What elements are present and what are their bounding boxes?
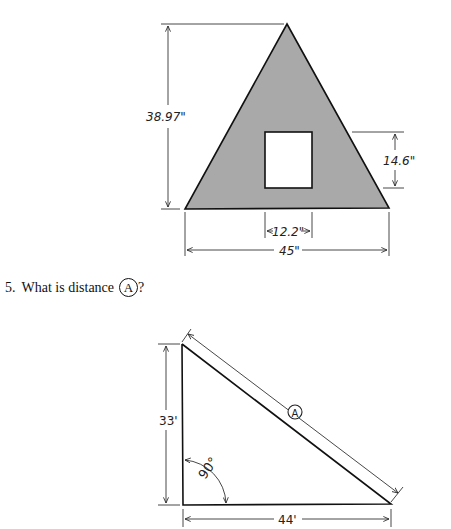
cutout-height-label: 14.6" <box>383 154 415 168</box>
marker-a-label: A <box>292 408 299 419</box>
rectangular-cutout <box>265 132 312 188</box>
base-label: 45" <box>279 244 300 258</box>
question-5: 5. What is distance A ? <box>5 278 144 297</box>
figure-triangle-cutout: 38.97" 14.6" 12.2" 45" 33' 44' <box>0 0 451 529</box>
question-text: What is distance <box>22 280 115 296</box>
question-marker-a: A <box>119 278 138 297</box>
question-number: 5. <box>5 280 16 296</box>
worksheet-page: 38.97" 14.6" 12.2" 45" 33' 44' <box>0 0 451 529</box>
base-label-44: 44' <box>278 513 297 527</box>
question-suffix: ? <box>138 280 144 296</box>
right-triangle <box>182 344 391 505</box>
height-label: 38.97" <box>146 110 186 124</box>
height-label-33: 33' <box>159 414 178 428</box>
cutout-width-label: 12.2" <box>272 225 304 239</box>
